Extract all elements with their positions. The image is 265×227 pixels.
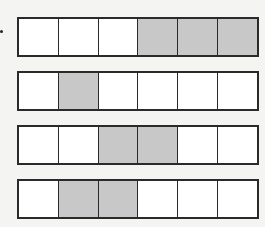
bullet-dot-icon (0, 30, 3, 33)
fraction-bar-4 (17, 179, 259, 219)
empty-cell (218, 181, 257, 217)
empty-cell (218, 127, 257, 163)
empty-cell (99, 73, 139, 109)
empty-cell (178, 181, 218, 217)
shaded-cell (99, 181, 139, 217)
empty-cell (178, 127, 218, 163)
empty-cell (99, 19, 139, 55)
empty-cell (218, 73, 257, 109)
empty-cell (19, 181, 59, 217)
empty-cell (138, 181, 178, 217)
empty-cell (59, 127, 99, 163)
fraction-bar-1 (17, 17, 259, 57)
empty-cell (19, 19, 59, 55)
shaded-cell (59, 73, 99, 109)
shaded-cell (59, 181, 99, 217)
empty-cell (178, 73, 218, 109)
shaded-cell (138, 127, 178, 163)
shaded-cell (218, 19, 257, 55)
fraction-bar-2 (17, 71, 259, 111)
empty-cell (59, 19, 99, 55)
empty-cell (19, 73, 59, 109)
shaded-cell (178, 19, 218, 55)
shaded-cell (99, 127, 139, 163)
shaded-cell (138, 19, 178, 55)
fraction-bar-3 (17, 125, 259, 165)
empty-cell (19, 127, 59, 163)
empty-cell (138, 73, 178, 109)
